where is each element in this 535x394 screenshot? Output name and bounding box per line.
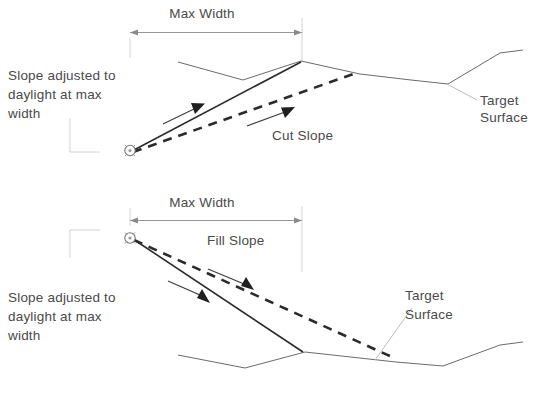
cut-note-line-2: daylight at max	[8, 87, 102, 102]
cut-note-line-1: Slope adjusted to	[8, 68, 116, 83]
diagram-canvas: Max Width	[0, 0, 535, 394]
cut-target-surface-line	[178, 50, 523, 84]
fill-note-line-1: Slope adjusted to	[8, 290, 116, 305]
fill-max-width-label: Max Width	[169, 195, 235, 210]
fill-slope-origin-marker	[125, 233, 135, 244]
fill-target-surface-line	[178, 342, 523, 368]
diagram-root: Max Width	[0, 0, 535, 394]
cut-slope-panel: Max Width	[7, 6, 528, 156]
fill-slope-label: Fill Slope	[207, 233, 265, 248]
cut-note-line-3: width	[7, 106, 41, 121]
fill-note-line-3: width	[7, 328, 41, 343]
cut-slope-annotation-arrow-1	[163, 103, 205, 124]
fill-target-surface-label-line1: Target	[405, 288, 444, 303]
fill-dimension-arrow-right	[294, 218, 302, 224]
fill-target-surface-label-line2: Surface	[405, 307, 453, 322]
fill-note-line-2: daylight at max	[8, 309, 102, 324]
cut-target-surface-label-line2: Surface	[480, 110, 528, 125]
fill-slope-annotation-arrow-2	[168, 281, 210, 303]
cut-slope-origin-marker	[125, 145, 135, 156]
fill-slope-panel: Max Width Fill Slope	[7, 195, 523, 368]
cut-max-width-label: Max Width	[169, 6, 235, 21]
cut-dimension-arrow-right	[294, 30, 302, 36]
cut-target-surface-label-line1: Target	[480, 93, 519, 108]
fill-dimension-arrow-left	[130, 218, 138, 224]
fill-slope-annotation-arrow-1	[208, 269, 254, 290]
cut-slope-label: Cut Slope	[272, 128, 333, 143]
fill-slope-solid-line	[133, 239, 303, 352]
fill-slope-dashed-line	[134, 240, 392, 357]
cut-target-surface-leader	[447, 84, 477, 100]
cut-dimension-arrow-left	[130, 30, 138, 36]
